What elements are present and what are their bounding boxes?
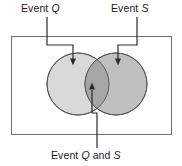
label-intersection-conjunction: and — [90, 149, 114, 161]
label-event-s-prefix: Event — [111, 2, 141, 14]
venn-diagram-canvas — [0, 0, 182, 166]
label-intersection-prefix: Event — [51, 149, 81, 161]
label-event-q-prefix: Event — [21, 2, 51, 14]
label-intersection-variable-1: Q — [81, 149, 89, 161]
label-event-q: Event Q — [21, 2, 60, 14]
label-event-s: Event S — [111, 2, 148, 14]
label-intersection-variable-2: S — [114, 149, 121, 161]
label-event-q-variable: Q — [51, 2, 59, 14]
label-event-s-variable: S — [141, 2, 148, 14]
label-event-q-and-s: Event Q and S — [51, 149, 121, 161]
venn-diagram: Event Q Event S Event Q and S — [0, 0, 182, 166]
